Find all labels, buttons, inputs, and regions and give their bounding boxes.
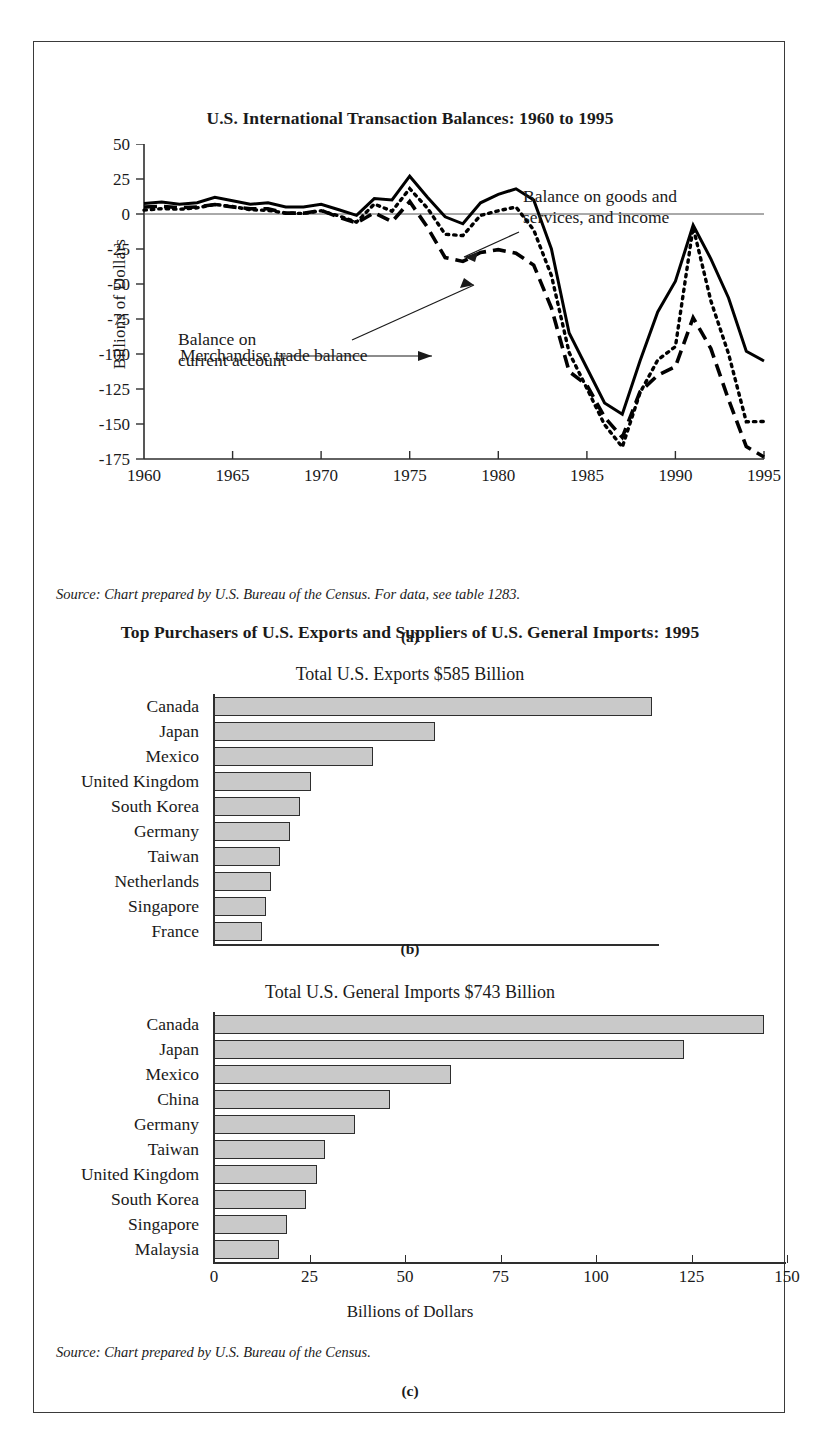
caption-c: (c) <box>34 1382 786 1400</box>
chart-b-title: Top Purchasers of U.S. Exports and Suppl… <box>34 622 786 643</box>
category-mexico: Mexico <box>27 1062 206 1087</box>
x-tick-1970: 1970 <box>291 466 351 486</box>
bar-singapore[interactable] <box>214 897 266 916</box>
chart-c-x-axis-label: Billions of Dollars <box>34 1302 786 1322</box>
bar-japan[interactable] <box>214 722 435 741</box>
bar-malaysia[interactable] <box>214 1240 279 1259</box>
bar-france[interactable] <box>214 922 262 941</box>
chart-c-subtitle: Total U.S. General Imports $743 Billion <box>34 982 786 1003</box>
chart-a-title: U.S. International Transaction Balances:… <box>34 108 786 129</box>
category-china: China <box>27 1087 206 1112</box>
table-row[interactable] <box>214 794 786 819</box>
x-tick-label-50: 50 <box>375 1267 435 1287</box>
category-canada: Canada <box>27 1012 206 1037</box>
figure-frame: U.S. International Transaction Balances:… <box>33 41 785 1413</box>
table-row[interactable] <box>214 719 786 744</box>
bar-category-label: United Kingdom <box>34 769 206 794</box>
x-tickmark-50 <box>405 1255 406 1263</box>
category-japan: Japan <box>27 1037 206 1062</box>
bar-netherlands[interactable] <box>214 872 271 891</box>
bar-category-label: Germany <box>34 819 206 844</box>
bar-united-kingdom[interactable] <box>214 1165 317 1184</box>
bar-category-label: Netherlands <box>34 869 206 894</box>
bar-germany[interactable] <box>214 822 290 841</box>
x-tickmark-125 <box>692 1255 693 1263</box>
x-tick-1975: 1975 <box>380 466 440 486</box>
x-tick-label-125: 125 <box>662 1267 722 1287</box>
x-tickmark-0 <box>214 1255 215 1263</box>
bar-category-label: Germany <box>34 1112 206 1137</box>
category-taiwan: Taiwan <box>27 844 206 869</box>
table-row[interactable] <box>214 1212 786 1237</box>
table-row[interactable] <box>214 894 786 919</box>
table-row[interactable] <box>214 819 786 844</box>
table-row[interactable] <box>214 1162 786 1187</box>
caption-b: (b) <box>34 940 786 958</box>
table-row[interactable] <box>214 1037 786 1062</box>
table-row[interactable] <box>214 1087 786 1112</box>
x-tickmark-100 <box>596 1255 597 1263</box>
chart-a-plot-area: Billions of Dollars 50 25 0 -25 -50 -75 … <box>34 144 786 516</box>
bar-category-label: United Kingdom <box>34 1162 206 1187</box>
chart-c-plot-area: CanadaJapanMexicoChinaGermanyTaiwanUnite… <box>34 1012 786 1270</box>
figure-page: U.S. International Transaction Balances:… <box>0 0 820 1452</box>
chart-b-value-axis <box>213 694 215 944</box>
chart-c-category-labels: CanadaJapanMexicoChinaGermanyTaiwanUnite… <box>34 1012 206 1262</box>
chart-b-plot-area: CanadaJapanMexicoUnited KingdomSouth Kor… <box>34 694 786 944</box>
annotation-goods-services-income: Balance on goods and services, and incom… <box>523 186 677 227</box>
bar-category-label: Taiwan <box>34 1137 206 1162</box>
source-note-c: Source: Chart prepared by U.S. Bureau of… <box>56 1344 371 1361</box>
category-singapore: Singapore <box>27 894 206 919</box>
bar-taiwan[interactable] <box>214 847 280 866</box>
bar-japan[interactable] <box>214 1040 684 1059</box>
bar-category-label: China <box>34 1087 206 1112</box>
bar-canada[interactable] <box>214 1015 764 1034</box>
table-row[interactable] <box>214 869 786 894</box>
bar-mexico[interactable] <box>214 747 373 766</box>
bar-singapore[interactable] <box>214 1215 287 1234</box>
table-row[interactable] <box>214 694 786 719</box>
bar-south-korea[interactable] <box>214 797 300 816</box>
x-tickmark-75 <box>501 1255 502 1263</box>
chart-b-bars <box>214 694 786 944</box>
category-south-korea: South Korea <box>27 1187 206 1212</box>
category-singapore: Singapore <box>27 1212 206 1237</box>
table-row[interactable] <box>214 1112 786 1137</box>
table-row[interactable] <box>214 1187 786 1212</box>
table-row[interactable] <box>214 844 786 869</box>
table-row[interactable] <box>214 1012 786 1037</box>
x-tick-1980: 1980 <box>468 466 528 486</box>
x-tickmark-150 <box>787 1255 788 1263</box>
category-united-kingdom: United Kingdom <box>27 769 206 794</box>
annotation-merchandise-text: Merchandise trade balance <box>180 345 368 366</box>
series-dotted <box>144 189 764 447</box>
bar-south-korea[interactable] <box>214 1190 306 1209</box>
bar-united-kingdom[interactable] <box>214 772 311 791</box>
bar-taiwan[interactable] <box>214 1140 325 1159</box>
x-tick-label-75: 75 <box>471 1267 531 1287</box>
x-tick-1990: 1990 <box>645 466 705 486</box>
bar-mexico[interactable] <box>214 1065 451 1084</box>
x-tickmark-25 <box>310 1255 311 1263</box>
x-tick-label-0: 0 <box>184 1267 244 1287</box>
table-row[interactable] <box>214 744 786 769</box>
bar-canada[interactable] <box>214 697 652 716</box>
table-row[interactable] <box>214 1137 786 1162</box>
bar-category-label: Mexico <box>34 744 206 769</box>
category-germany: Germany <box>27 819 206 844</box>
bar-china[interactable] <box>214 1090 390 1109</box>
table-row[interactable] <box>214 769 786 794</box>
annotation-goods-line1: Balance on goods and <box>523 186 677 207</box>
category-taiwan: Taiwan <box>27 1137 206 1162</box>
x-tick-1995: 1995 <box>734 466 794 486</box>
x-tick-1965: 1965 <box>203 466 263 486</box>
annotation-merchandise-trade: Merchandise trade balance <box>180 346 368 366</box>
x-tick-1960: 1960 <box>114 466 174 486</box>
bar-category-label: Japan <box>34 719 206 744</box>
annotation-goods-line2: services, and income <box>523 207 677 228</box>
table-row[interactable] <box>214 1062 786 1087</box>
bar-category-label: Malaysia <box>34 1237 206 1262</box>
bar-germany[interactable] <box>214 1115 355 1134</box>
category-netherlands: Netherlands <box>27 869 206 894</box>
x-tick-label-100: 100 <box>566 1267 626 1287</box>
